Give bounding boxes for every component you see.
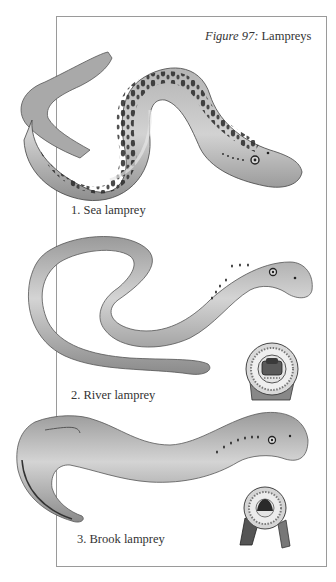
river-lamprey-illustration	[28, 237, 312, 401]
lamprey-illustrations	[0, 0, 336, 582]
river-lamprey-oral-disc	[246, 343, 298, 400]
label-brook-lamprey: 3. Brook lamprey	[77, 532, 165, 547]
sea-lamprey-illustration	[21, 52, 302, 201]
label-river-lamprey: 2. River lamprey	[71, 388, 155, 403]
label-sea-lamprey: 1. Sea lamprey	[71, 203, 146, 218]
brook-lamprey-illustration	[17, 412, 308, 548]
brook-lamprey-oral-disc	[240, 487, 290, 548]
